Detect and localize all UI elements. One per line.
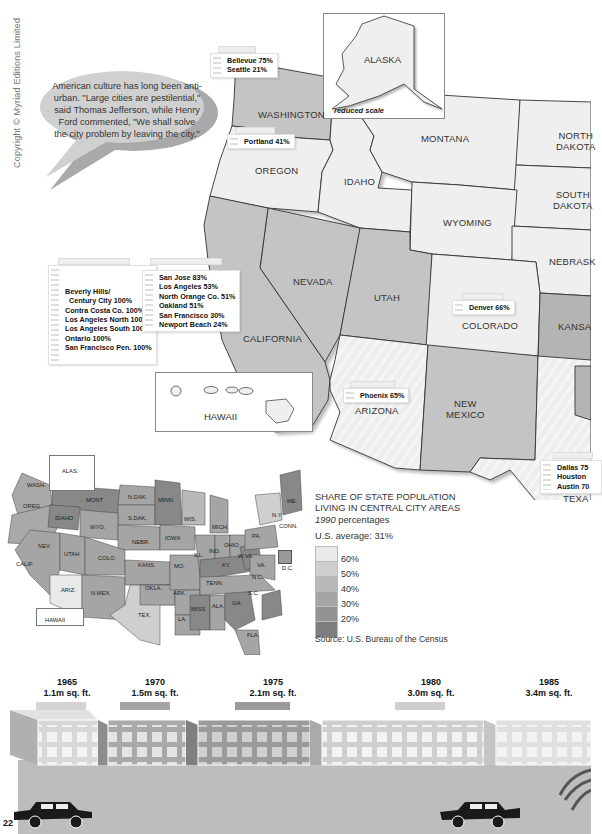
legend-subtitle: 1990 percentages bbox=[315, 515, 389, 525]
label-utah: UTAH bbox=[374, 292, 400, 303]
mini-label-ala: ALA. bbox=[212, 603, 225, 609]
mini-label-okla: OKLA. bbox=[145, 585, 162, 591]
mini-label-mich: MICH. bbox=[212, 524, 228, 530]
mini-label-ny: N.Y. bbox=[272, 512, 283, 518]
mall-growth-illustration bbox=[0, 700, 591, 834]
road bbox=[18, 760, 591, 834]
mini-label-tex: TEX. bbox=[138, 612, 151, 618]
tag-roof bbox=[58, 258, 130, 265]
legend-value: 50% bbox=[341, 569, 359, 579]
mini-label-mo: MO. bbox=[174, 563, 185, 569]
label-arizona: ARIZONA bbox=[355, 405, 399, 416]
timeline-1975: 19752.1m sq. ft. bbox=[233, 677, 313, 699]
state-oklahoma bbox=[575, 366, 591, 420]
mini-label-oreg: OREG. bbox=[23, 503, 42, 509]
mini-label-minn: MINN. bbox=[158, 497, 174, 503]
mini-label-me: ME. bbox=[287, 498, 297, 504]
alaska-shape-icon bbox=[324, 14, 444, 118]
mini-label-va: VA. bbox=[257, 562, 266, 568]
city-tag-texas: Dallas 75Houston Austin 70 bbox=[540, 460, 602, 494]
mini-label-fla: FLA. bbox=[247, 632, 259, 638]
label-oregon: OREGON bbox=[255, 165, 298, 176]
mini-label-ohio: OHIO bbox=[224, 542, 239, 548]
label-kansas: KANSA bbox=[558, 321, 591, 332]
source-note: Source: U.S. Bureau of the Census bbox=[315, 634, 448, 644]
hawaii-inset: HAWAII bbox=[155, 372, 313, 432]
legend-value: 30% bbox=[341, 599, 359, 609]
mini-label-utah: UTAH bbox=[64, 551, 79, 557]
mini-label-sc: S.C. bbox=[248, 590, 259, 596]
mini-label-ky: KY. bbox=[222, 562, 231, 568]
mini-label-nc: N.C. bbox=[252, 574, 264, 580]
mini-label-kans: KANS. bbox=[138, 562, 155, 568]
mini-hawaii-inset: HAWAII bbox=[36, 608, 84, 626]
tag-roof bbox=[150, 258, 222, 265]
label-nevada: NEVADA bbox=[293, 276, 333, 287]
label-north-dakota: NORTHDAKOTA bbox=[556, 130, 596, 152]
timeline-1965: 19651.1m sq. ft. bbox=[27, 677, 107, 699]
mini-label-ark: ARK. bbox=[173, 590, 187, 596]
city-tag-oregon: Portland 41% bbox=[227, 134, 295, 149]
mini-label-ga: GA. bbox=[232, 600, 242, 606]
label-wyoming: WYOMING bbox=[443, 217, 492, 228]
label-washington: WASHINGTON bbox=[258, 109, 325, 120]
label-colorado: COLORADO bbox=[462, 320, 518, 331]
mini-label-dc: D.C. bbox=[282, 565, 294, 571]
mini-label-miss: MISS. bbox=[191, 606, 207, 612]
hawaii-islands-icon bbox=[156, 373, 312, 431]
mini-label-conn: CONN. bbox=[279, 523, 298, 529]
city-tag-california-b: San Jose 83%Los Angeles 53%North Orange … bbox=[142, 270, 240, 332]
mini-label-ill: ILL. bbox=[194, 552, 204, 558]
label-south-dakota: SOUTHDAKOTA bbox=[553, 189, 593, 211]
mini-label-ariz: ARIZ. bbox=[61, 587, 76, 593]
label-nebraska: NEBRASK bbox=[549, 256, 596, 267]
mini-label-wva: W.VA. bbox=[238, 553, 254, 559]
city-tag-california-a: Beverly Hills/ Century City 100%Contra C… bbox=[48, 265, 157, 365]
label-new-mexico: NEWMEXICO bbox=[446, 398, 485, 420]
legend-value: 60% bbox=[341, 554, 359, 564]
mini-label-sdak: S.DAK. bbox=[128, 515, 147, 521]
tag-roof bbox=[218, 46, 256, 53]
mini-label-alas: ALAS. bbox=[62, 468, 78, 474]
label-california: CALIFORNIA bbox=[243, 333, 302, 344]
city-tag-colorado: Denver 66% bbox=[452, 300, 515, 315]
timeline-1980: 19803.0m sq. ft. bbox=[391, 677, 471, 699]
label-texas: TEXA bbox=[563, 493, 589, 504]
tag-roof bbox=[350, 381, 396, 388]
dc-marker-icon bbox=[278, 550, 292, 564]
legend-value: 20% bbox=[341, 614, 359, 624]
label-montana: MONTANA bbox=[421, 133, 469, 144]
mini-label-nebr: NEBR. bbox=[132, 539, 150, 545]
mini-label-tenn: TENN. bbox=[206, 580, 223, 586]
label-idaho: IDAHO bbox=[344, 176, 375, 187]
city-tag-washington: Bellevue 75%Seattle 21% bbox=[210, 53, 278, 78]
reduced-scale-note: reduced scale bbox=[334, 106, 384, 115]
mini-label-la: LA. bbox=[178, 616, 187, 622]
mini-label-iowa: IOWA bbox=[165, 535, 180, 541]
mini-label-colo: COLO. bbox=[98, 555, 116, 561]
mini-label-ind: IND. bbox=[209, 548, 221, 554]
tag-roof bbox=[235, 127, 275, 134]
legend-average: U.S. average: 31% bbox=[315, 531, 393, 541]
mini-label-wis: WIS. bbox=[184, 516, 197, 522]
city-tag-arizona: Phoenix 65% bbox=[343, 388, 409, 403]
mini-label-ndak: N.DAK. bbox=[128, 494, 147, 500]
mini-label-mont: MONT bbox=[86, 497, 103, 503]
timeline-1970: 19701.5m sq. ft. bbox=[115, 677, 195, 699]
mini-alaska-inset: ALAS. bbox=[49, 455, 95, 491]
tag-roof bbox=[462, 293, 504, 300]
mini-label-hawaii: HAWAII bbox=[45, 617, 65, 623]
mini-label-nmex: N.MEX. bbox=[91, 590, 111, 596]
alaska-label: ALASKA bbox=[364, 54, 401, 65]
mini-label-wash: WASH. bbox=[27, 482, 46, 488]
alaska-inset: ALASKA reduced scale bbox=[323, 13, 445, 119]
timeline-1985: 19853.4m sq. ft. bbox=[509, 677, 589, 699]
quote-text: American culture has long been anti-urba… bbox=[52, 80, 202, 140]
legend-title: SHARE OF STATE POPULATIONLIVING IN CENTR… bbox=[315, 492, 460, 514]
mini-label-calif: CALIF. bbox=[16, 561, 33, 567]
mini-label-wyo: WYO. bbox=[90, 524, 105, 530]
mini-label-idaho: IDAHO bbox=[55, 515, 73, 521]
page-number: 22 bbox=[3, 818, 13, 828]
hawaii-label: HAWAII bbox=[204, 411, 237, 422]
legend-value: 40% bbox=[341, 584, 359, 594]
